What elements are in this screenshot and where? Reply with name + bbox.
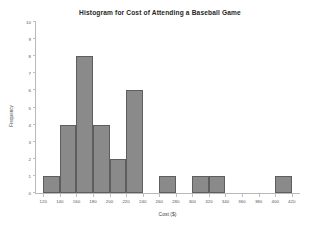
y-tick <box>33 55 36 56</box>
y-tick-label: 6 <box>29 88 31 93</box>
y-tick <box>33 175 36 176</box>
x-tick <box>159 194 160 197</box>
histogram-bar <box>76 56 93 193</box>
histogram-bar <box>93 125 110 193</box>
x-tick-label: 200 <box>106 199 113 204</box>
y-tick <box>33 72 36 73</box>
histogram-bar <box>126 90 143 193</box>
x-tick-label: 400 <box>271 199 278 204</box>
x-tick <box>93 194 94 197</box>
histogram-bar <box>43 176 60 193</box>
y-tick-label: 3 <box>29 139 31 144</box>
x-tick-label: 220 <box>122 199 129 204</box>
histogram-bar <box>60 125 77 193</box>
y-tick <box>33 141 36 142</box>
histogram-bar <box>209 176 226 193</box>
x-tick <box>192 194 193 197</box>
x-tick <box>259 194 260 197</box>
y-tick-label: 9 <box>29 37 31 42</box>
x-tick-label: 140 <box>56 199 63 204</box>
x-tick-label: 340 <box>222 199 229 204</box>
x-tick <box>76 194 77 197</box>
x-tick-label: 420 <box>288 199 295 204</box>
histogram-bar <box>110 159 127 193</box>
y-tick <box>33 21 36 22</box>
y-tick <box>33 107 36 108</box>
x-tick <box>143 194 144 197</box>
x-axis-line <box>35 193 300 194</box>
x-tick-label: 300 <box>189 199 196 204</box>
y-tick <box>33 158 36 159</box>
y-tick <box>33 192 36 193</box>
histogram-bar <box>275 176 292 193</box>
y-tick <box>33 124 36 125</box>
x-tick <box>242 194 243 197</box>
x-tick <box>126 194 127 197</box>
histogram-chart: Histogram for Cost of Attending a Baseba… <box>0 0 320 232</box>
y-tick <box>33 38 36 39</box>
y-axis-title: Frequency <box>9 105 14 127</box>
histogram-bar <box>159 176 176 193</box>
x-tick <box>292 194 293 197</box>
x-tick <box>43 194 44 197</box>
y-tick-label: 0 <box>29 191 31 196</box>
x-tick <box>209 194 210 197</box>
y-tick <box>33 89 36 90</box>
x-tick-label: 320 <box>205 199 212 204</box>
y-axis-line <box>35 22 36 194</box>
y-tick-label: 2 <box>29 156 31 161</box>
x-axis-title: Cost ($) <box>35 211 300 217</box>
y-tick-label: 8 <box>29 54 31 59</box>
x-tick <box>60 194 61 197</box>
x-tick-label: 280 <box>172 199 179 204</box>
x-tick-label: 120 <box>40 199 47 204</box>
plot-area: 012345678910 120140160180200220240260280… <box>35 22 300 194</box>
y-tick-label: 7 <box>29 71 31 76</box>
x-tick-label: 160 <box>73 199 80 204</box>
x-tick <box>176 194 177 197</box>
histogram-bar <box>192 176 209 193</box>
x-tick-label: 360 <box>238 199 245 204</box>
x-tick-label: 380 <box>255 199 262 204</box>
y-tick-label: 10 <box>26 20 31 25</box>
y-tick-label: 4 <box>29 122 31 127</box>
y-tick-label: 1 <box>29 173 31 178</box>
x-tick <box>275 194 276 197</box>
x-tick-label: 240 <box>139 199 146 204</box>
x-tick <box>110 194 111 197</box>
x-tick-label: 260 <box>156 199 163 204</box>
x-tick-label: 180 <box>89 199 96 204</box>
y-tick-label: 5 <box>29 105 31 110</box>
x-tick <box>225 194 226 197</box>
chart-title: Histogram for Cost of Attending a Baseba… <box>0 9 320 16</box>
